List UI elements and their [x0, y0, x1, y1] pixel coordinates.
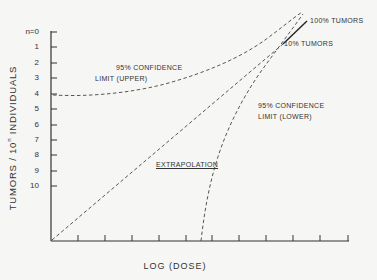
y-tick-label: 5: [17, 105, 39, 113]
upper-confidence-curve: [53, 12, 302, 96]
upper-limit-label-line1: 95% CONFIDENCE: [116, 64, 182, 71]
y-tick-label: 9: [17, 167, 39, 175]
lower-limit-label-line2: LIMIT (LOWER): [258, 113, 312, 120]
tumors-10-label: 10% TUMORS: [284, 40, 333, 47]
lower-limit-label-line1: 95% CONFIDENCE: [258, 102, 324, 109]
y-tick-label: 1: [17, 43, 39, 51]
y-tick-label: n=0: [17, 28, 39, 36]
y-tick-label: 10: [17, 182, 39, 190]
dose-response-figure: n=0 1 2 3 4 5 6 7 8 9 10 TUMORS / 10n IN…: [0, 0, 377, 280]
y-tick-label: 8: [17, 151, 39, 159]
y-tick-label: 3: [17, 74, 39, 82]
y-tick-label: 2: [17, 59, 39, 67]
y-axis-label-suffix: INDIVIDUALS: [7, 66, 18, 138]
extrapolation-label: EXTRAPOLATION: [156, 161, 218, 168]
x-ticks: [78, 235, 348, 241]
x-axis-label: LOG (DOSE): [143, 261, 206, 271]
y-tick-label: 7: [17, 136, 39, 144]
y-ticks: [51, 32, 57, 186]
y-tick-label: 6: [17, 121, 39, 129]
tumors-100-label: 100% TUMORS: [310, 17, 363, 24]
upper-limit-label-line2: LIMIT (UPPER): [95, 75, 147, 82]
y-axis-label-exponent: n: [6, 138, 12, 142]
y-axis-label-prefix: TUMORS / 10: [7, 142, 18, 210]
y-tick-label: 4: [17, 90, 39, 98]
extrapolation-line: [52, 44, 283, 240]
y-axis-label: TUMORS / 10n INDIVIDUALS: [6, 66, 17, 211]
